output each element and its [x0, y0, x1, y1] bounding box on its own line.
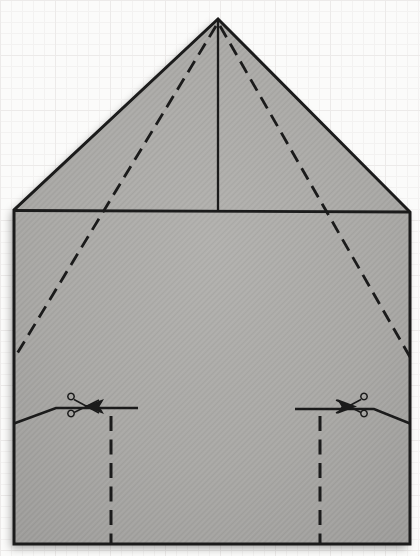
flap-base-edge-line: [14, 211, 410, 213]
scanned-page-background: [0, 0, 420, 556]
paper-grain-texture: [14, 19, 410, 544]
origami-step-diagram: [0, 0, 420, 556]
